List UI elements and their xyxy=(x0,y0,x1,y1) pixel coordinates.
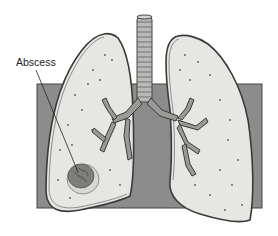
abscess-label: Abscess xyxy=(16,56,56,68)
abscess-lesion xyxy=(67,164,99,194)
lung-illustration xyxy=(0,0,278,236)
trachea xyxy=(137,15,152,102)
lung-diagram: Abscess xyxy=(0,0,278,236)
